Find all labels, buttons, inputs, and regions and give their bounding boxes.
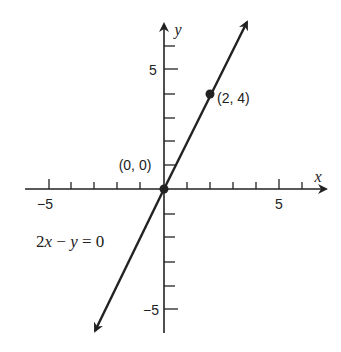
x-tick-label-neg5: −5 [37,196,53,212]
point-2-4: (2, 4) [206,90,250,107]
x-tick-label-5: 5 [275,196,283,212]
equation-minus: − [52,232,70,251]
y-axis-label: y [172,21,182,39]
equation-label: 2x − y = 0 [36,232,104,251]
point-origin: (0, 0) [119,157,169,194]
y-tick-label-5: 5 [149,62,157,78]
point-2-4-label: (2, 4) [217,90,250,106]
equation-y: y [68,232,78,251]
x-axis: −5 5 x [25,168,326,212]
equation-coef: 2 [36,232,45,251]
x-axis-ticks [49,179,302,189]
point-origin-label: (0, 0) [119,157,152,173]
equation-eq: = 0 [78,232,105,251]
coordinate-plane: −5 5 x 5 −5 y (0, 0) (2, [0,0,341,352]
x-axis-label: x [313,168,321,185]
y-axis: 5 −5 y [143,21,182,333]
y-tick-label-neg5: −5 [143,302,159,318]
